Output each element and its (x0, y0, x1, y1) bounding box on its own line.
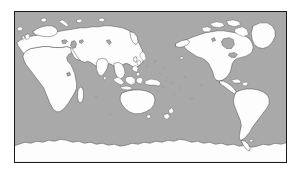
land-indian-islet (96, 96, 97, 97)
land-pacific-islet (171, 82, 173, 84)
water-great-bear-lake (212, 38, 216, 42)
land-pacific-islet (165, 78, 167, 80)
land-indian-islet (110, 114, 111, 115)
land-pacific-islet (191, 98, 192, 99)
land-pacific-islet (162, 86, 164, 88)
land-pacific-islet (146, 65, 148, 67)
land-pacific-islet (179, 87, 180, 88)
land-indian-islet (50, 105, 51, 106)
world-map-graphic (15, 12, 286, 162)
land-pacific-islet (154, 61, 155, 62)
land-pacific-islet (159, 74, 161, 76)
land-pacific-islet (184, 76, 185, 77)
land-pacific-islet (156, 90, 157, 91)
water-lake-victoria (67, 72, 71, 76)
land-pacific-islet (152, 72, 154, 74)
land-pacific-islet (173, 93, 175, 95)
land-pacific-islet (163, 68, 164, 69)
land-pacific-islet (201, 84, 202, 85)
figure-canvas (0, 0, 300, 176)
land-madagascar (78, 87, 84, 103)
world-map-frame (14, 11, 287, 163)
